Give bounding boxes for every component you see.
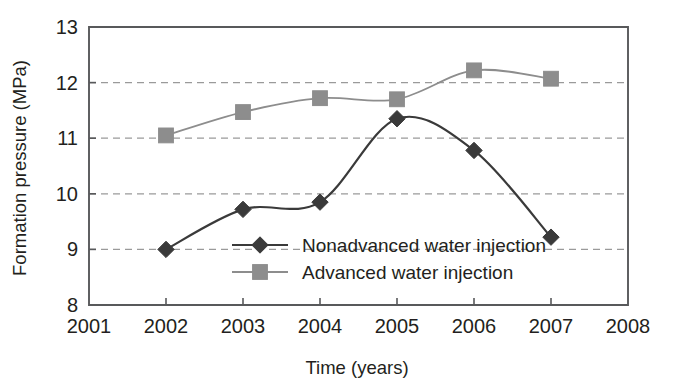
x-tick-label-2008: 2008 [606, 315, 651, 337]
chart-figure: 20012002200320042005200620072008 1312111… [0, 0, 674, 383]
y-axis-title: Formation pressure (MPa) [9, 60, 30, 276]
x-tick-label-2001: 2001 [67, 315, 112, 337]
y-tick-label-11: 11 [57, 127, 78, 149]
x-axis-title: Time (years) [305, 357, 408, 378]
y-tick-label-13: 13 [56, 16, 78, 38]
data-point-advanced-2007 [544, 71, 559, 86]
x-tick-label-2005: 2005 [375, 315, 420, 337]
data-point-advanced-2006 [467, 63, 482, 78]
y-tick-label-12: 12 [56, 72, 78, 94]
x-tick-label-2003: 2003 [221, 315, 266, 337]
y-tick-label-8: 8 [67, 294, 78, 316]
x-tick-label-2006: 2006 [452, 315, 497, 337]
legend-label: Nonadvanced water injection [302, 235, 546, 256]
x-tick-label-2004: 2004 [298, 315, 343, 337]
x-tick-label-2007: 2007 [529, 315, 574, 337]
data-point-advanced-2003 [236, 105, 251, 120]
legend-label: Advanced water injection [302, 262, 513, 283]
x-tick-label-2002: 2002 [144, 315, 189, 337]
data-point-advanced-2005 [390, 92, 405, 107]
legend-marker-square-icon [253, 265, 268, 280]
data-point-advanced-2002 [159, 128, 174, 143]
y-tick-label-10: 10 [56, 183, 78, 205]
y-tick-label-9: 9 [67, 238, 78, 260]
chart-canvas: 20012002200320042005200620072008 1312111… [0, 0, 674, 383]
data-point-advanced-2004 [313, 91, 328, 106]
